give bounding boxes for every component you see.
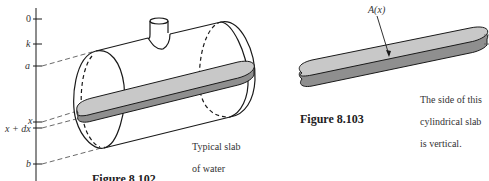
typical-slab-in-tank — [77, 61, 255, 122]
typical-slab-note-line2: of water — [192, 163, 240, 174]
axis-label-k: k — [26, 38, 30, 49]
typical-slab-note-line1: Typical slab — [192, 141, 240, 152]
slab-side-note-line1: The side of this — [420, 94, 482, 105]
diagram-canvas — [0, 0, 489, 181]
slab-side-note-line2: cylindrical slab — [420, 116, 482, 127]
slab-side-note: The side of this cylindrical slab is ver… — [420, 83, 482, 160]
vertical-axis — [33, 8, 42, 181]
axis-label-b: b — [26, 158, 31, 169]
typical-slab-note: Typical slab of water — [192, 130, 240, 181]
axis-label-zero: 0 — [26, 13, 31, 24]
area-label: A(x) — [368, 4, 385, 15]
axis-label-x-plus-dx: x + dx — [5, 123, 31, 134]
figure-8-102-caption: Figure 8.102 — [92, 172, 156, 181]
slab-side-note-line3: is vertical. — [420, 138, 482, 149]
axis-label-a: a — [25, 60, 30, 71]
cylindrical-slab — [299, 16, 489, 87]
figure-8-103-caption: Figure 8.103 — [300, 112, 364, 127]
